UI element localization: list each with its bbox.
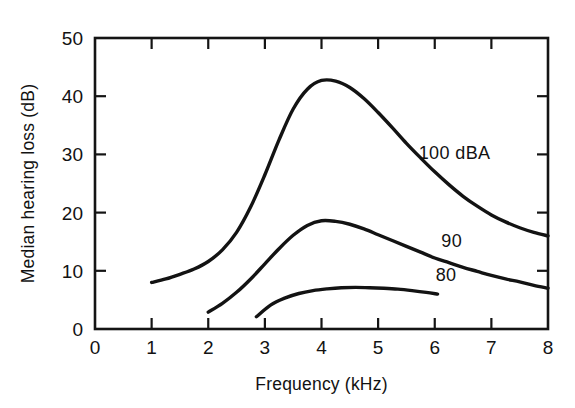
series-curve-80 [256,287,437,316]
y-tick-label: 50 [62,28,83,49]
y-axis-tick-labels: 01020304050 [62,28,83,340]
x-tick-label: 2 [203,337,214,358]
x-tick-label: 7 [486,337,497,358]
hearing-loss-line-chart: 012345678 01020304050 100 dBA9080 Freque… [0,0,575,408]
series-label-80: 80 [436,265,457,285]
x-axis-title: Frequency (kHz) [255,374,387,394]
x-tick-label: 4 [316,337,327,358]
series-label-100-dba: 100 dBA [419,143,491,163]
x-tick-label: 6 [429,337,440,358]
chart-figure: 012345678 01020304050 100 dBA9080 Freque… [0,0,575,408]
series-curve-100-dba [152,80,548,283]
data-curves [152,80,548,317]
y-tick-label: 10 [62,261,83,282]
y-tick-label: 30 [62,144,83,165]
y-axis-title: Median hearing loss (dB) [18,84,38,283]
x-tick-label: 8 [543,337,554,358]
series-curve-90 [208,220,548,312]
x-tick-label: 0 [90,337,101,358]
y-tick-label: 40 [62,86,83,107]
x-tick-label: 5 [373,337,384,358]
x-tick-label: 1 [146,337,157,358]
x-tick-label: 3 [260,337,271,358]
x-axis-tick-labels: 012345678 [90,337,554,358]
y-tick-label: 0 [72,319,83,340]
series-label-90: 90 [441,231,462,251]
y-tick-label: 20 [62,203,83,224]
